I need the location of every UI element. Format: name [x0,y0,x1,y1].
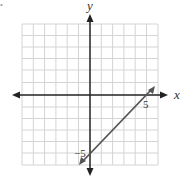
arrow-down-icon [87,168,94,176]
coordinate-plane: x y 5 −5 • [0,0,191,179]
x-tick-5: 5 [143,98,149,110]
y-axis-label: y [85,0,93,13]
bullet-marker: • [0,1,3,10]
x-axis-label: x [173,87,180,102]
y-tick-neg5: −5 [74,147,86,159]
arrow-left-icon [12,92,20,99]
arrow-right-icon [160,92,168,99]
arrow-up-icon [87,14,94,22]
